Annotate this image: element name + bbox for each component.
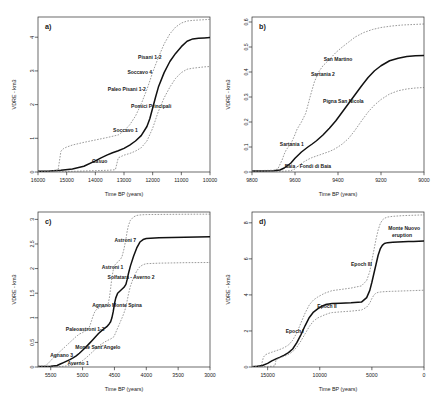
y-tick-label: 4 (29, 36, 35, 39)
curve-label: Sartania 1 (280, 141, 304, 147)
panel-letter: d) (259, 217, 266, 226)
curve-label: Monte Nuovo (388, 225, 420, 231)
series-mean (252, 241, 424, 367)
curve-label: Agnano 3 (50, 352, 73, 358)
x-tick-label: 0 (423, 372, 426, 378)
x-axis-title: Time BP (years) (319, 191, 358, 197)
x-tick-label: 13000 (117, 177, 132, 183)
x-tick-label: 10000 (203, 177, 218, 183)
panel-letter: c) (45, 217, 52, 226)
curve-label: Baia - Fondi di Baia (285, 163, 332, 169)
x-tick-label: 3500 (172, 372, 184, 378)
y-tick-label: 4 (243, 293, 249, 296)
figure-canvas: 1600015000140001300012000110001000001234… (0, 0, 440, 403)
x-tick-label: 15000 (260, 372, 275, 378)
y-tick-label: 2 (29, 103, 35, 106)
x-tick-label: 9800 (246, 177, 258, 183)
y-tick-label: 0.6 (243, 18, 249, 25)
panel-a-plot: 1600015000140001300012000110001000001234… (8, 8, 218, 200)
y-tick-label: 3 (29, 218, 35, 221)
curve-label: Paleo Pisani 1-2 (108, 86, 146, 92)
curve-label: Paleoastroni 1-2 (66, 326, 105, 332)
panel-b: 9800960094009200900000.10.20.30.40.50.6T… (222, 8, 432, 200)
y-tick-label: 0.5 (243, 43, 249, 50)
panel-c: 55005000450040003500300000.511.522.53Tim… (8, 203, 218, 395)
curve-label: Epoch III (351, 261, 372, 267)
x-axis-title: Time BP (years) (319, 386, 358, 392)
y-axis-title: VDRE - km3 (11, 80, 17, 110)
y-tick-label: 1 (29, 137, 35, 140)
y-tick-label: 0 (243, 170, 249, 173)
series-lower (38, 67, 210, 172)
y-tick-label: 6 (243, 257, 249, 260)
curve-label: Agnano Monte Spina (92, 302, 142, 308)
y-tick-label: 1 (29, 316, 35, 319)
series-mean (252, 56, 424, 172)
curve-label: Casuo (92, 158, 107, 164)
x-tick-label: 5500 (45, 372, 57, 378)
y-axis-title: VDRE - km3 (225, 80, 231, 110)
curve-label: Soccavo 1 (113, 127, 138, 133)
y-tick-label: 1.5 (29, 289, 35, 296)
curve-label: San Martino (324, 56, 353, 62)
x-tick-label: 14000 (88, 177, 103, 183)
y-axis-title: VDRE - km3 (11, 275, 17, 305)
series-lower (252, 290, 424, 367)
curve-label: Astroni 7 (114, 237, 136, 243)
y-tick-label: 0.2 (243, 118, 249, 125)
x-tick-label: 16000 (31, 177, 46, 183)
y-tick-label: 8 (243, 221, 249, 224)
panel-letter: b) (259, 22, 266, 31)
y-tick-label: 0.4 (243, 68, 249, 75)
x-tick-label: 9200 (375, 177, 387, 183)
curve-label: Solfatara - Averno 2 (108, 274, 155, 280)
y-tick-label: 0 (243, 365, 249, 368)
curve-label: Pigna San Nicola (323, 98, 364, 104)
x-tick-label: 9600 (289, 177, 301, 183)
y-tick-label: 3 (29, 69, 35, 72)
y-tick-label: 0 (29, 170, 35, 173)
x-tick-label: 10000 (313, 372, 328, 378)
x-tick-label: 9400 (332, 177, 344, 183)
x-tick-label: 4500 (109, 372, 121, 378)
y-tick-label: 2 (243, 329, 249, 332)
y-tick-label: 0.1 (243, 143, 249, 150)
y-tick-label: 2.5 (29, 240, 35, 247)
panel-letter: a) (45, 22, 52, 31)
curve-label: Monte Sant'Angelo (75, 344, 120, 350)
y-tick-label: 0 (29, 365, 35, 368)
y-axis-title: VDRE - km3 (225, 275, 231, 305)
x-tick-label: 3000 (204, 372, 216, 378)
panel-d: 15000100005000002468Time BP (years)VDRE … (222, 203, 432, 395)
panel-b-plot: 9800960094009200900000.10.20.30.40.50.6T… (222, 8, 432, 200)
curve-label: Epoch I (286, 328, 305, 334)
x-tick-label: 12000 (145, 177, 160, 183)
x-axis-title: Time BP (years) (105, 386, 144, 392)
y-tick-label: 0.5 (29, 339, 35, 346)
series-upper (252, 24, 424, 171)
plot-frame (38, 212, 210, 367)
panel-c-plot: 55005000450040003500300000.511.522.53Tim… (8, 203, 218, 395)
panel-a: 1600015000140001300012000110001000001234… (8, 8, 218, 200)
curve-label: Pisani 1-2 (138, 54, 162, 60)
x-tick-label: 5000 (77, 372, 89, 378)
series-mean (38, 38, 210, 172)
x-tick-label: 4000 (141, 372, 153, 378)
curve-label: Epoch II (317, 303, 337, 309)
x-tick-label: 15000 (59, 177, 74, 183)
curve-label: Averno 1 (68, 360, 89, 366)
curve-label: Sartania 2 (311, 71, 335, 77)
curve-label: Pomici Principali (131, 103, 172, 109)
y-tick-label: 2 (29, 267, 35, 270)
x-axis-title: Time BP (years) (105, 191, 144, 197)
panel-d-plot: 15000100005000002468Time BP (years)VDRE … (222, 203, 432, 395)
curve-label: Soccavo 4 (127, 69, 152, 75)
curve-label: eruption (392, 232, 412, 238)
x-tick-label: 11000 (174, 177, 188, 183)
plot-frame (252, 17, 424, 172)
curve-label: Astroni 1 (102, 264, 124, 270)
y-tick-label: 0.3 (243, 93, 249, 100)
x-tick-label: 9000 (418, 177, 430, 183)
x-tick-label: 5000 (366, 372, 378, 378)
